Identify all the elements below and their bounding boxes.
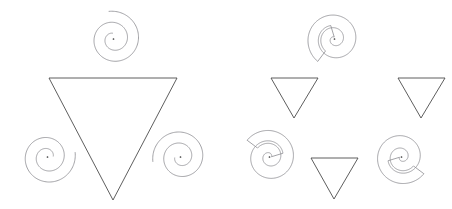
spiral-ribbon-inducer-bottom-left-center-dot xyxy=(269,156,271,158)
spiral-ribbon-inducer-bottom-right-band xyxy=(378,136,424,184)
spiral-ribbon-inducer-top-center-dot xyxy=(334,38,336,40)
spiral-inducer-bottom-right-center-dot xyxy=(180,156,182,158)
small-inverted-triangle-top-right xyxy=(398,78,445,118)
spiral-ribbon-inducer-top xyxy=(308,15,356,61)
left-panel-corner-masks xyxy=(19,10,209,185)
spiral-inducer-bottom-left-center-dot xyxy=(47,156,49,158)
small-inverted-triangle-bottom-center xyxy=(311,158,358,199)
small-inverted-triangle-top-left xyxy=(271,78,318,118)
spiral-inducer-top-center-dot xyxy=(113,38,115,40)
illusion-figure-canvas xyxy=(0,0,452,209)
spiral-ribbon-inducer-bottom-right-center-dot xyxy=(401,156,403,158)
spiral-ribbon-inducer-top-band xyxy=(308,15,356,61)
spiral-ribbon-inducer-bottom-left xyxy=(247,130,293,178)
right-panel xyxy=(247,15,445,199)
left-panel xyxy=(19,10,209,200)
spiral-ribbon-inducer-bottom-left-band xyxy=(247,130,293,178)
spiral-ribbon-inducer-bottom-right xyxy=(378,136,424,184)
